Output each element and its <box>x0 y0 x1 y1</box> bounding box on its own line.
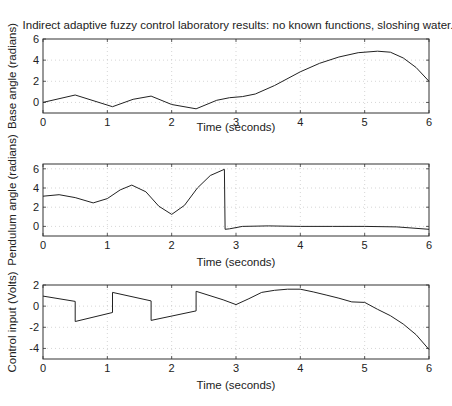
x-tick-label: 4 <box>297 239 303 251</box>
x-tick-label: 0 <box>40 362 46 374</box>
y-tick-label: 2 <box>33 201 39 213</box>
y-tick-label: 0 <box>33 300 39 312</box>
y-tick-label: -2 <box>29 321 39 333</box>
x-tick-label: 4 <box>297 116 303 128</box>
x-tick-label: 0 <box>40 239 46 251</box>
pendulum-angle-x-axis-label: Time (seconds) <box>197 256 276 268</box>
control-input-plot: 0123456-4-202Time (seconds)Control input… <box>6 271 432 391</box>
control-input-series-line <box>43 289 429 349</box>
x-tick-label: 2 <box>169 239 175 251</box>
x-tick-label: 2 <box>169 362 175 374</box>
y-tick-label: 0 <box>33 96 39 108</box>
y-tick-label: -4 <box>29 342 39 354</box>
base-angle-x-axis-label: Time (seconds) <box>197 121 276 133</box>
x-tick-label: 1 <box>104 239 110 251</box>
pendulum-angle-plot: 01234560246Time (seconds)Pendulum angle … <box>6 134 432 268</box>
y-tick-label: 6 <box>33 33 39 45</box>
y-tick-label: 0 <box>33 220 39 232</box>
base-angle-y-axis-label: Base angle (radians) <box>6 23 18 129</box>
x-tick-label: 1 <box>104 362 110 374</box>
x-tick-label: 6 <box>426 116 432 128</box>
y-tick-label: 2 <box>33 75 39 87</box>
control-input-y-axis-label: Control input (Volts) <box>6 271 18 372</box>
y-tick-label: 4 <box>33 54 39 66</box>
x-tick-label: 3 <box>233 239 239 251</box>
x-tick-label: 5 <box>362 116 368 128</box>
x-tick-label: 6 <box>426 239 432 251</box>
base-angle-plot: 01234560246Time (seconds)Base angle (rad… <box>6 23 432 133</box>
figure: Indirect adaptive fuzzy control laborato… <box>0 0 452 406</box>
x-tick-label: 5 <box>362 239 368 251</box>
x-tick-label: 6 <box>426 362 432 374</box>
figure-title: Indirect adaptive fuzzy control laborato… <box>23 19 452 31</box>
x-tick-label: 1 <box>104 116 110 128</box>
x-tick-label: 2 <box>169 116 175 128</box>
y-tick-label: 6 <box>33 163 39 175</box>
y-tick-label: 4 <box>33 182 39 194</box>
x-tick-label: 3 <box>233 362 239 374</box>
x-tick-label: 5 <box>362 362 368 374</box>
control-input-x-axis-label: Time (seconds) <box>197 379 276 391</box>
y-tick-label: 2 <box>33 279 39 291</box>
x-tick-label: 0 <box>40 116 46 128</box>
pendulum-angle-y-axis-label: Pendulum angle (radians) <box>6 134 18 266</box>
x-tick-label: 4 <box>297 362 303 374</box>
